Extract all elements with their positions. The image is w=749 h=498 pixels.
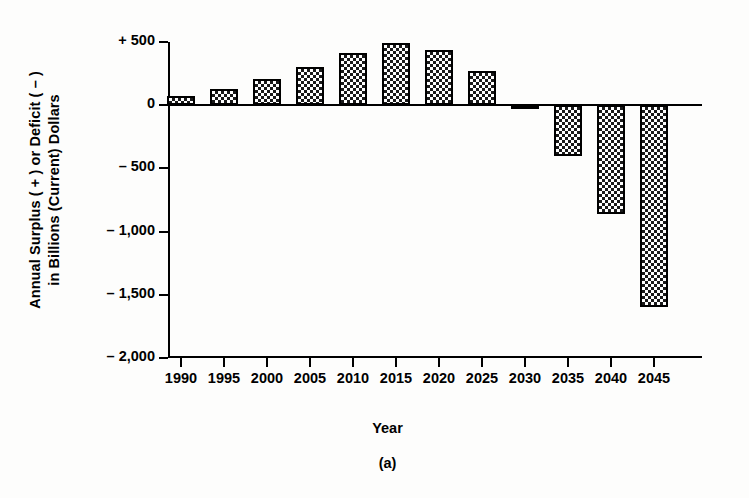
bar-2010	[339, 53, 367, 105]
plot-area: + 5000– 500– 1,000– 1,500– 2,000 1990199…	[168, 42, 702, 358]
bar-2040	[597, 105, 625, 214]
x-tick	[438, 358, 440, 367]
x-tick	[352, 358, 354, 367]
bar-2045	[640, 105, 668, 307]
bar-2035	[554, 105, 582, 156]
x-tick-label: 2025	[466, 370, 498, 386]
x-tick	[309, 358, 311, 367]
y-tick-label: 0	[147, 95, 155, 111]
y-tick-label: – 500	[119, 158, 155, 174]
x-tick-label: 2015	[380, 370, 412, 386]
y-axis-title: Annual Surplus ( + ) or Deficit ( – ) in…	[10, 0, 80, 380]
y-tick: + 500	[159, 41, 168, 43]
x-tick-label: 1995	[208, 370, 240, 386]
x-tick-label: 2040	[595, 370, 627, 386]
bar-2000	[253, 79, 281, 106]
bar-1995	[210, 89, 238, 105]
bar-2020	[425, 50, 453, 106]
x-tick	[610, 358, 612, 367]
y-tick-label: + 500	[118, 32, 155, 48]
y-tick-label: – 1,000	[107, 222, 155, 238]
x-tick	[481, 358, 483, 367]
x-axis-title-text: Year	[372, 420, 403, 436]
y-tick: – 2,000	[159, 357, 168, 359]
bar-2005	[296, 67, 324, 105]
x-tick-label: 2030	[509, 370, 541, 386]
x-tick	[653, 358, 655, 367]
x-tick-label: 2045	[638, 370, 670, 386]
y-tick: – 1,500	[159, 294, 168, 296]
y-tick-label: – 1,500	[107, 285, 155, 301]
bar-2015	[382, 43, 410, 105]
x-tick	[524, 358, 526, 367]
x-tick-label: 2010	[337, 370, 369, 386]
x-tick-label: 2020	[423, 370, 455, 386]
x-axis-line	[168, 356, 702, 358]
x-tick-label: 2005	[294, 370, 326, 386]
x-tick	[567, 358, 569, 367]
x-tick	[223, 358, 225, 367]
x-tick-label: 2000	[251, 370, 283, 386]
y-tick: – 1,000	[159, 231, 168, 233]
x-axis-title: Year	[0, 420, 749, 436]
x-tick-label: 1990	[165, 370, 197, 386]
x-tick-label: 2035	[552, 370, 584, 386]
x-tick	[266, 358, 268, 367]
bar-2030	[511, 105, 539, 109]
y-axis-title-line-1: Annual Surplus ( + ) or Deficit ( – )	[26, 71, 45, 309]
bar-1990	[167, 96, 195, 105]
y-axis-title-line-2: in Billions (Current) Dollars	[45, 71, 64, 309]
x-tick	[180, 358, 182, 367]
y-tick: – 500	[159, 167, 168, 169]
figure-panel: Annual Surplus ( + ) or Deficit ( – ) in…	[0, 0, 749, 498]
bar-2025	[468, 71, 496, 105]
x-tick	[395, 358, 397, 367]
figure-caption: (a)	[0, 455, 749, 471]
y-axis-line	[168, 42, 170, 358]
figure-caption-text: (a)	[379, 455, 397, 471]
y-tick-label: – 2,000	[107, 348, 155, 364]
